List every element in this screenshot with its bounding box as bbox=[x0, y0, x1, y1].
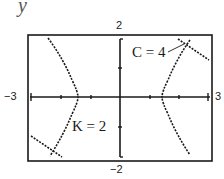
plot-area bbox=[0, 0, 224, 179]
annotation-k: K = 2 bbox=[72, 118, 106, 135]
annotation-c: C = 4 bbox=[132, 44, 165, 61]
annotation-leader bbox=[168, 44, 184, 52]
